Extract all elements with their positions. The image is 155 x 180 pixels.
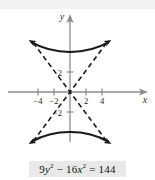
x-tick-label-2: 2 [84,96,88,106]
equation-minus: − [57,163,63,175]
x-axis-label: x [142,94,148,105]
equation-caption: 9y2 − 16x2 = 144 [0,160,155,178]
equation-exp-y: 2 [50,162,54,170]
figure-page: x y −4 −2 2 4 2 −2 [0,0,155,180]
x-tick-label-4: 4 [100,96,105,106]
x-tick-label--4: −4 [33,96,43,106]
axis-group [8,14,148,142]
equation-equals: = [89,163,95,175]
equation-box: 9y2 − 16x2 = 144 [29,161,125,177]
equation-exp-x: 2 [83,162,87,170]
equation-rhs: 144 [99,163,116,175]
y-tick-label-2: 2 [58,68,62,78]
y-axis-label: y [59,11,65,22]
hyperbola-plot: x y −4 −2 2 4 2 −2 [0,6,155,158]
equation-coef-x: 16 [66,163,77,175]
x-tick-label--2: −2 [49,96,58,106]
